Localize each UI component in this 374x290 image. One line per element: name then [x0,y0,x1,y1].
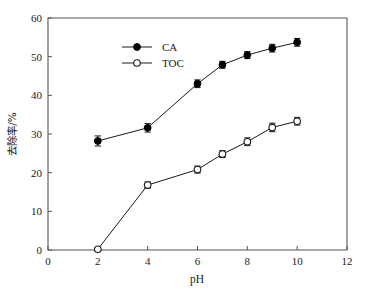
data-point-marker [144,124,151,131]
x-axis-title: pH [190,273,204,286]
x-tick-label: 4 [145,255,151,267]
x-tick-label: 10 [292,255,304,267]
data-point-marker [269,124,276,131]
y-axis-title: 去除率/% [6,112,18,156]
removal-rate-vs-ph-chart: 024681012 0102030405060 pH 去除率/% CATOC [0,0,374,290]
data-point-marker [194,166,201,173]
data-point-marker [219,61,226,68]
x-tick-label: 6 [195,255,201,267]
data-point-marker [269,45,276,52]
chart-container: 024681012 0102030405060 pH 去除率/% CATOC [0,0,374,290]
chart-background [0,0,374,290]
y-tick-label: 30 [31,128,43,140]
x-tick-label: 12 [342,255,353,267]
legend-label: TOC [162,57,184,69]
legend-label: CA [162,41,177,53]
legend-open-circle-icon [134,60,141,67]
data-point-marker [94,138,101,145]
y-tick-label: 50 [31,51,43,63]
legend-filled-circle-icon [134,44,141,51]
y-tick-label: 60 [31,12,43,24]
x-tick-label: 2 [95,255,101,267]
data-point-marker [244,52,251,59]
x-tick-label: 0 [45,255,51,267]
y-tick-label: 10 [31,205,43,217]
y-tick-label: 20 [31,167,43,179]
data-point-marker [194,80,201,87]
data-point-marker [294,39,301,46]
x-tick-label: 8 [245,255,251,267]
y-tick-label: 0 [37,244,43,256]
data-point-marker [294,118,301,125]
data-point-marker [95,246,102,253]
y-tick-label: 40 [31,89,43,101]
data-point-marker [219,151,226,158]
data-point-marker [244,138,251,145]
data-point-marker [144,182,151,189]
